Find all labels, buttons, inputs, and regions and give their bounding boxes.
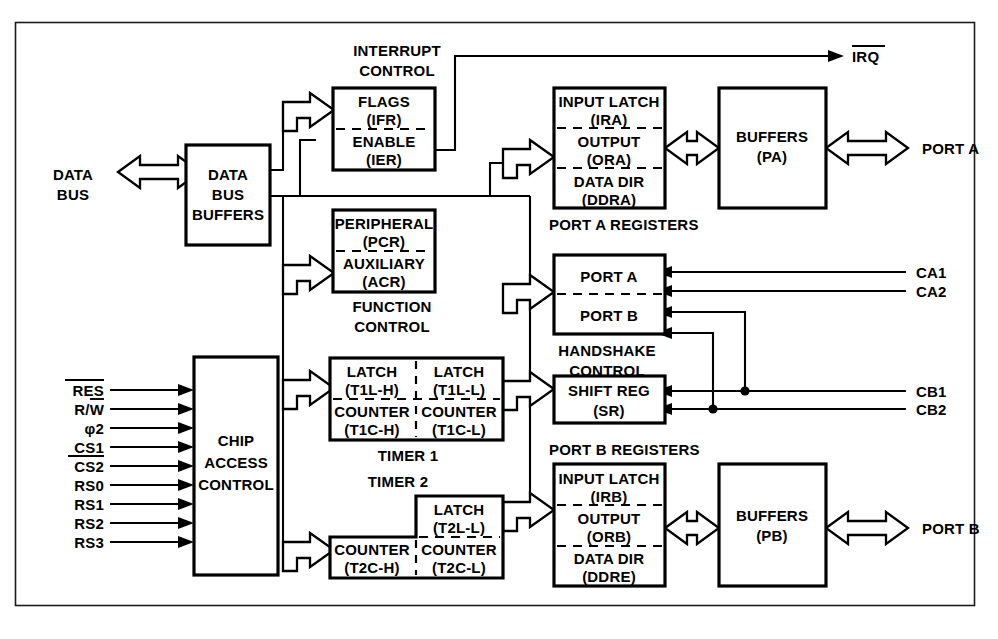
irb-name: INPUT LATCH [558, 470, 659, 487]
t1ll-name: LATCH [434, 363, 485, 380]
irb-abbr: (IRB) [591, 488, 628, 505]
signal-label-phi2: φ2 [85, 420, 104, 437]
ira-abbr: (IRA) [591, 111, 628, 128]
signal-label-rs2: RS2 [74, 515, 104, 532]
pcr-name: PERIPHERAL [335, 215, 434, 232]
label-cs2: CS2 [68, 456, 104, 475]
data-bus-label-line-1: DATA [53, 166, 93, 183]
orb-abbr: (ORB) [587, 528, 631, 545]
label-cs1: CS1 [74, 439, 104, 456]
t2cl-abbr: (T2C-L) [432, 559, 486, 576]
block-diagram-canvas: DATA BUS BUFFERS CHIP ACCESS CONTROL INT… [0, 0, 998, 639]
acr-abbr: (ACR) [362, 273, 406, 290]
ca2-label: CA2 [916, 283, 947, 300]
block-buffers-pb[interactable]: BUFFERS (PB) [719, 464, 826, 586]
t2cl-name: COUNTER [421, 541, 497, 558]
function-control-caption-2: CONTROL [354, 318, 430, 335]
interrupt-control-caption-2: CONTROL [359, 62, 435, 79]
interrupt-control-caption-1: INTERRUPT [353, 42, 441, 59]
ddrb-abbr: (DDRE) [582, 568, 636, 585]
handshake-caption-1: HANDSHAKE [558, 342, 656, 359]
port-b-registers-caption: PORT B REGISTERS [549, 441, 700, 458]
port-a-registers-caption: PORT A REGISTERS [549, 216, 699, 233]
t2ll-name: LATCH [434, 501, 485, 518]
label-rs3: RS3 [74, 534, 104, 551]
chip-access-input-lines [110, 384, 194, 548]
label-rs0: RS0 [74, 477, 104, 494]
t1cl-abbr: (T1C-L) [432, 421, 486, 438]
t2ll-abbr: (T2L-L) [433, 519, 485, 536]
ier-abbr: (IER) [366, 151, 402, 168]
port-a-external-label: PORT A [922, 140, 979, 157]
ifr-name: FLAGS [358, 93, 410, 110]
chip-access-control-line-3: CONTROL [198, 476, 274, 493]
data-bus-label-line-2: BUS [57, 186, 89, 203]
handshake-port-a-name: PORT A [580, 268, 637, 285]
t2ch-abbr: (T2C-H) [344, 559, 400, 576]
shift-register-abbr: (SR) [593, 402, 625, 419]
t1ll-abbr: (T1L-L) [433, 381, 485, 398]
data-bus-buffers-line-2: BUS [212, 186, 244, 203]
data-bus-buffers-line-3: BUFFERS [192, 206, 264, 223]
buffers-pa-name: BUFFERS [736, 128, 808, 145]
chip-access-control-line-1: CHIP [218, 432, 255, 449]
signal-label-cs2: CS2 [74, 458, 104, 475]
block-shift-register[interactable]: SHIFT REG (SR) [554, 376, 665, 423]
ifr-abbr: (IFR) [366, 111, 401, 128]
ira-name: INPUT LATCH [558, 93, 659, 110]
block-chip-access-control[interactable]: CHIP ACCESS CONTROL [194, 357, 278, 575]
buffers-pb-name: BUFFERS [736, 507, 808, 524]
signal-label-rw: R/W [74, 401, 104, 418]
label-rw: R/W [74, 399, 104, 418]
cb1-label: CB1 [916, 383, 947, 400]
t1lh-abbr: (T1L-H) [345, 381, 399, 398]
data-bus-buffers-line-1: DATA [208, 166, 248, 183]
signal-label-rs3: RS3 [74, 534, 104, 551]
ora-abbr: (ORA) [587, 151, 631, 168]
block-buffers-pa[interactable]: BUFFERS (PA) [719, 88, 826, 208]
port-b-external-label: PORT B [922, 520, 980, 537]
shift-register-name: SHIFT REG [568, 382, 650, 399]
orb-name: OUTPUT [578, 510, 641, 527]
function-control-caption-1: FUNCTION [352, 298, 431, 315]
t1ch-abbr: (T1C-H) [344, 421, 400, 438]
signal-label-res: RES [73, 382, 104, 399]
ddra-abbr: (DDRA) [582, 191, 637, 208]
ddrb-name: DATA DIR [574, 550, 644, 567]
ca1-label: CA1 [916, 264, 947, 281]
label-phi2: φ2 [85, 420, 104, 437]
signal-label-rs1: RS1 [74, 496, 104, 513]
irq-label: IRQ [852, 48, 879, 65]
handshake-port-b-name: PORT B [580, 307, 638, 324]
chip-access-control-line-2: ACCESS [204, 454, 268, 471]
ora-name: OUTPUT [578, 133, 641, 150]
timer1-caption: TIMER 1 [378, 447, 439, 464]
label-rs2: RS2 [74, 515, 104, 532]
t1lh-name: LATCH [347, 363, 398, 380]
signal-label-rs0: RS0 [74, 477, 104, 494]
buffers-pb-abbr: (PB) [756, 527, 788, 544]
cb2-label: CB2 [916, 401, 947, 418]
t2ch-name: COUNTER [334, 541, 410, 558]
acr-name: AUXILIARY [343, 255, 425, 272]
pcr-abbr: (PCR) [363, 233, 406, 250]
timer2-caption: TIMER 2 [368, 473, 429, 490]
label-rs1: RS1 [74, 496, 104, 513]
ddra-name: DATA DIR [574, 173, 644, 190]
buffers-pa-abbr: (PA) [757, 148, 788, 165]
t1ch-name: COUNTER [334, 403, 410, 420]
ier-name: ENABLE [353, 133, 416, 150]
signal-label-cs1: CS1 [74, 439, 104, 456]
block-data-bus-buffers[interactable]: DATA BUS BUFFERS [186, 145, 270, 245]
via-block-diagram: DATA BUS BUFFERS CHIP ACCESS CONTROL INT… [0, 0, 998, 639]
t1cl-name: COUNTER [421, 403, 497, 420]
